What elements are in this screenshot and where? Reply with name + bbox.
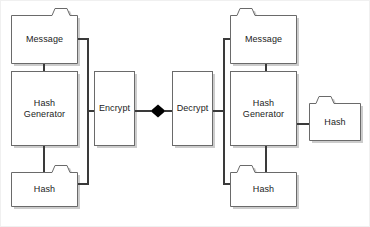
node-left-hash-generator[interactable] (12, 72, 78, 146)
node-decrypt[interactable] (173, 72, 213, 146)
node-right-hash-out[interactable] (310, 97, 361, 141)
node-right-message[interactable] (231, 9, 297, 64)
diagram-shapes-layer (1, 1, 370, 227)
node-left-message[interactable] (12, 9, 78, 64)
node-right-hash-generator[interactable] (231, 72, 297, 146)
node-encrypt[interactable] (95, 72, 135, 146)
node-right-hash[interactable] (231, 166, 297, 207)
node-shapes (12, 9, 361, 207)
diamond-connector-icon (151, 105, 166, 118)
diagram-canvas: Message Hash Generator Hash Encrypt Decr… (0, 0, 370, 227)
